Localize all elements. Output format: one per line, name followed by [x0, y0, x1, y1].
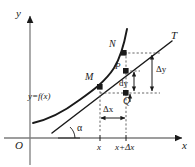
point-label-q: Q: [123, 96, 130, 106]
tangent-line: [52, 41, 172, 133]
angle-alpha-label: α: [77, 123, 82, 133]
x-tick-label-x0: x: [97, 143, 101, 152]
delta-x-label: Δx: [103, 105, 113, 114]
point-label-n: N: [109, 39, 116, 49]
dy-label: dy: [119, 79, 128, 88]
y-axis-label: y: [16, 8, 21, 19]
delta-y-label: Δy: [156, 65, 166, 74]
angle-alpha-arc: [70, 127, 75, 138]
x-axis-label: x: [182, 140, 187, 151]
point-marker-n: [121, 50, 127, 56]
tangent-label: T: [171, 30, 177, 41]
point-marker-p: [123, 68, 129, 74]
point-label-p: P: [115, 62, 121, 71]
differential-diagram: y x O y=f(x) T α M N P Q Δx Δy dy x x+Δx: [0, 0, 195, 167]
origin-label: O: [15, 140, 23, 151]
point-marker-m: [97, 84, 103, 90]
function-label: y=f(x): [28, 92, 51, 101]
point-label-m: M: [85, 72, 93, 82]
x-tick-label-x1: x+Δx: [115, 143, 134, 152]
